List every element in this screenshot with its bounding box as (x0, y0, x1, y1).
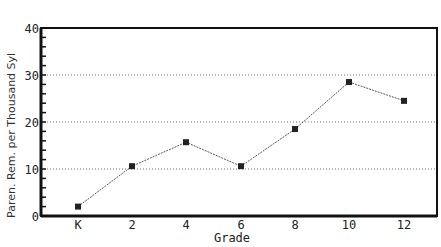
x-tick-label: 10 (342, 218, 356, 232)
y-tick-labels: 010203040 (25, 22, 39, 224)
y-tick-label: 10 (25, 163, 39, 177)
x-tick-labels: K24681012 (74, 218, 411, 232)
x-tick-label: 2 (128, 218, 135, 232)
gridlines (41, 75, 437, 169)
y-tick-label: 20 (25, 116, 39, 130)
x-tick-label: 12 (397, 218, 411, 232)
x-axis-label: Grade (214, 231, 250, 245)
data-markers (75, 79, 407, 210)
y-axis-label: Paren. Rem. per Thousand Syl (5, 53, 18, 218)
y-tick-label: 30 (25, 69, 39, 83)
data-point-marker (75, 204, 81, 210)
x-tick-label: 4 (182, 218, 189, 232)
x-tick-label: 6 (237, 218, 244, 232)
line-chart: 010203040 K24681012 Grade Paren. Rem. pe… (0, 0, 441, 247)
data-point-marker (346, 79, 352, 85)
y-tick-label: 40 (25, 22, 39, 36)
data-point-marker (292, 126, 298, 132)
data-point-marker (129, 163, 135, 169)
data-point-marker (183, 139, 189, 145)
data-point-marker (238, 163, 244, 169)
y-tick-label: 0 (32, 210, 39, 224)
x-tick-label: 8 (291, 218, 298, 232)
x-tick-label: K (74, 218, 82, 232)
data-line (78, 82, 404, 207)
data-point-marker (401, 98, 407, 104)
